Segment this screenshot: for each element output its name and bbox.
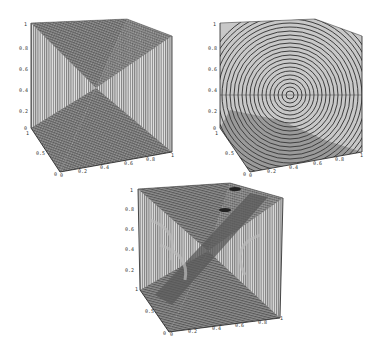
svg-text:0.8: 0.8 bbox=[335, 156, 344, 162]
svg-text:0.8: 0.8 bbox=[146, 156, 155, 162]
svg-text:1: 1 bbox=[171, 152, 174, 158]
svg-text:0.2: 0.2 bbox=[208, 108, 217, 114]
svg-text:0.4: 0.4 bbox=[19, 87, 28, 93]
svg-text:0.8: 0.8 bbox=[125, 206, 134, 212]
svg-text:0.2: 0.2 bbox=[125, 267, 134, 273]
svg-text:0.6: 0.6 bbox=[235, 322, 244, 328]
svg-text:0.2: 0.2 bbox=[267, 168, 276, 174]
svg-text:0: 0 bbox=[163, 330, 166, 336]
svg-text:0.6: 0.6 bbox=[208, 66, 217, 72]
svg-text:1: 1 bbox=[135, 286, 138, 292]
svg-text:0.4: 0.4 bbox=[125, 246, 134, 252]
svg-text:0.4: 0.4 bbox=[208, 87, 217, 93]
svg-text:1: 1 bbox=[280, 315, 283, 321]
svg-text:1: 1 bbox=[215, 130, 218, 136]
svg-text:0.2: 0.2 bbox=[19, 108, 28, 114]
svg-text:1: 1 bbox=[360, 152, 363, 158]
surface-plot-2: 1 0.8 0.6 0.4 0.2 0 1 0.5 0 0 0.2 0.4 0.… bbox=[190, 0, 381, 180]
svg-text:0.6: 0.6 bbox=[19, 66, 28, 72]
svg-text:0.8: 0.8 bbox=[208, 45, 217, 51]
surface-plot-2-canvas: 1 0.8 0.6 0.4 0.2 0 1 0.5 0 0 0.2 0.4 0.… bbox=[190, 0, 381, 180]
svg-text:0.2: 0.2 bbox=[188, 328, 197, 334]
svg-text:0.4: 0.4 bbox=[289, 164, 298, 170]
surface-plot-3-canvas: 1 0.8 0.6 0.4 0.2 1 0.5 0 0 0.2 0.4 0.6 … bbox=[100, 175, 290, 356]
svg-text:0.5: 0.5 bbox=[145, 308, 154, 314]
svg-text:0: 0 bbox=[60, 172, 63, 178]
svg-text:0.6: 0.6 bbox=[313, 160, 322, 166]
svg-text:0.5: 0.5 bbox=[36, 150, 45, 156]
svg-text:0.8: 0.8 bbox=[19, 45, 28, 51]
svg-text:1: 1 bbox=[24, 21, 27, 27]
svg-text:0.4: 0.4 bbox=[100, 164, 109, 170]
svg-text:1: 1 bbox=[26, 130, 29, 136]
svg-text:0: 0 bbox=[54, 171, 57, 177]
svg-text:0: 0 bbox=[170, 331, 173, 337]
svg-text:0.2: 0.2 bbox=[78, 168, 87, 174]
svg-text:0.4: 0.4 bbox=[212, 325, 221, 331]
svg-text:0.6: 0.6 bbox=[124, 160, 133, 166]
surface-plot-1-canvas: 1 0.8 0.6 0.4 0.2 0 1 0.5 0 0 0.2 0.4 0.… bbox=[0, 0, 190, 180]
svg-text:1: 1 bbox=[130, 187, 133, 193]
svg-text:0.5: 0.5 bbox=[225, 150, 234, 156]
svg-text:1: 1 bbox=[213, 21, 216, 27]
surface-plot-1: 1 0.8 0.6 0.4 0.2 0 1 0.5 0 0 0.2 0.4 0.… bbox=[0, 0, 190, 180]
svg-text:0.6: 0.6 bbox=[125, 226, 134, 232]
surface-plot-3: 1 0.8 0.6 0.4 0.2 1 0.5 0 0 0.2 0.4 0.6 … bbox=[100, 175, 290, 356]
svg-text:0.8: 0.8 bbox=[258, 319, 267, 325]
